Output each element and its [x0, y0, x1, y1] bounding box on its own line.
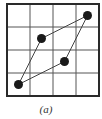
- vertex-dot: [60, 57, 69, 66]
- figure-caption: (a): [0, 102, 92, 116]
- vertex-dot: [14, 80, 23, 89]
- vertex-dot: [37, 34, 46, 43]
- grid-diagram: [0, 0, 102, 102]
- vertex-dot: [83, 11, 92, 20]
